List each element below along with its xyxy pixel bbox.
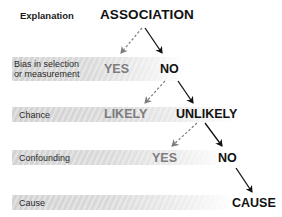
- arrow-no-to-unlikely-icon: [178, 81, 193, 103]
- arrow-unlikely-to-no-icon: [205, 123, 222, 146]
- arrow-association-to-no-icon: [145, 28, 162, 53]
- arrow-unlikely-to-yes-icon: [172, 123, 197, 146]
- arrow-no-to-likely-icon: [145, 81, 165, 103]
- arrow-no-to-cause-icon: [236, 168, 252, 192]
- arrow-association-to-yes-icon: [121, 28, 142, 53]
- decision-arrows: [0, 0, 282, 217]
